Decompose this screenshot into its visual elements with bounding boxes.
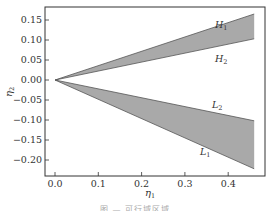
- y-tick-label: 0.10: [21, 34, 42, 45]
- y-tick-label: −0.10: [13, 114, 42, 125]
- y-tick-label: −0.20: [13, 154, 42, 165]
- label-L2: L2: [211, 99, 222, 112]
- label-H2: H2: [214, 53, 227, 66]
- y-tick-label: −0.05: [13, 94, 42, 105]
- y-axis-ticks: 0.150.100.050.00−0.05−0.10−0.15−0.20: [13, 14, 49, 165]
- y-tick-label: 0.15: [21, 14, 42, 25]
- x-axis-ticks: 0.00.10.20.30.4: [47, 172, 235, 189]
- figure-caption: 图 — 可行域区域: [0, 203, 270, 211]
- chart-svg: 0.00.10.20.30.4 0.150.100.050.00−0.05−0.…: [0, 0, 270, 211]
- x-tick-label: 0.1: [91, 178, 106, 189]
- filled-regions: [55, 14, 254, 169]
- x-tick-label: 0.0: [47, 178, 62, 189]
- x-tick-label: 0.3: [177, 178, 192, 189]
- y-tick-label: 0.00: [21, 74, 42, 85]
- y-tick-label: −0.15: [13, 134, 42, 145]
- x-axis-label: η1: [145, 187, 155, 200]
- x-tick-label: 0.4: [221, 178, 236, 189]
- y-tick-label: 0.05: [21, 54, 42, 65]
